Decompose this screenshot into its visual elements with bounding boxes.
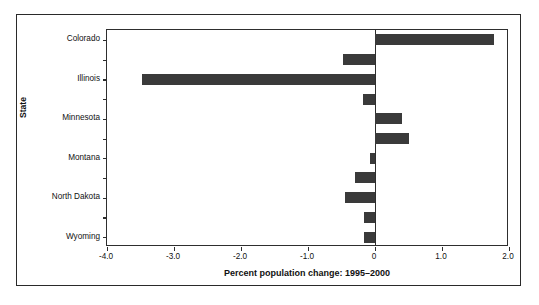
x-axis-tick [442,247,443,251]
x-axis-tick [509,247,510,251]
x-axis-tick [174,247,175,251]
x-axis-tick [375,247,376,251]
x-axis-tick [308,247,309,251]
x-axis-label: -2.0 [233,252,247,261]
y-axis-label: Minnesota [62,113,100,122]
y-axis-label: Wyoming [66,232,100,241]
bar [375,133,409,144]
bar-row [107,148,507,168]
bar [355,172,375,183]
y-axis-tick [103,40,107,41]
bar [364,212,375,223]
bar-row [107,168,507,188]
y-axis-label: Montana [68,153,100,162]
y-axis-tick [103,237,107,238]
x-axis-label: -4.0 [99,252,113,261]
bar-row [107,50,507,70]
y-axis-label: North Dakota [52,192,100,201]
bar [345,192,375,203]
x-axis-label: -1.0 [300,252,314,261]
bar [363,94,375,105]
bar-row [107,109,507,129]
y-axis-label: Colorado [67,34,100,43]
bar-row [107,69,507,89]
y-axis-tick-labels: ColoradoIllinoisMinnesotaMontanaNorth Da… [0,29,100,246]
x-axis-title: Percent population change: 1995–2000 [106,268,508,278]
y-axis-tick [103,139,107,140]
bar [375,34,494,45]
x-axis-label: 2.0 [502,252,513,261]
x-axis-label: 0 [372,252,377,261]
x-axis-label: -3.0 [166,252,180,261]
bar-chart: State ColoradoIllinoisMinnesotaMontanaNo… [0,0,539,305]
bar [142,74,375,85]
x-axis-tick-labels: -4.0-3.0-2.0-1.001.02.0 [106,252,508,264]
bar [364,232,375,243]
y-axis-tick [103,158,107,159]
y-axis-tick [103,60,107,61]
bar-row [107,129,507,149]
bar [375,113,402,124]
y-axis-tick [103,79,107,80]
bar-row [107,30,507,50]
y-axis-tick [103,99,107,100]
y-axis-tick [103,178,107,179]
bar [343,54,375,65]
bar-row [107,89,507,109]
y-axis-tick [103,198,107,199]
bar [370,153,375,164]
plot-area [106,29,508,246]
bar-row [107,227,507,247]
x-axis-tick [241,247,242,251]
bar-row [107,188,507,208]
y-axis-tick [103,217,107,218]
x-axis-tick [107,247,108,251]
y-axis-tick [103,119,107,120]
x-axis-label: 1.0 [435,252,446,261]
bar-row [107,208,507,228]
y-axis-label: Illinois [77,74,100,83]
